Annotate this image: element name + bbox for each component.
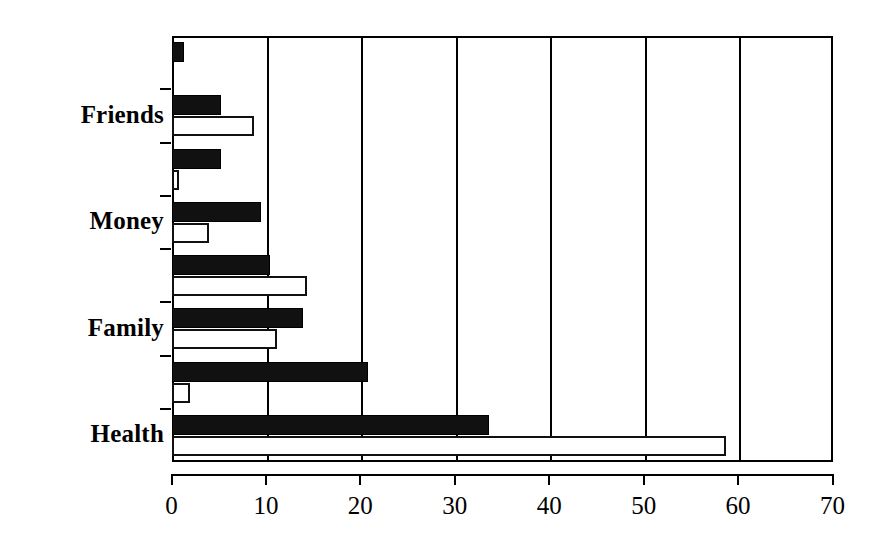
y-axis-tick-2: [160, 142, 171, 144]
y-axis-tick-6: [160, 355, 171, 357]
x-axis-tick-label-0: 0: [165, 492, 178, 520]
bar-series-dark-3: [172, 202, 262, 222]
bar-series-dark-6: [172, 362, 368, 382]
bar-series-light-2: [172, 170, 180, 190]
bar-series-light-5: [172, 329, 278, 349]
bar-series-light-7: [172, 436, 726, 456]
x-axis-line: [172, 474, 833, 476]
x-axis-tick-label-70: 70: [820, 492, 845, 520]
bar-series-dark-1: [172, 95, 221, 115]
bars-layer: [172, 36, 833, 462]
bar-series-light-4: [172, 276, 307, 296]
y-axis-tick-7: [160, 408, 171, 410]
category-label-friends: Friends: [81, 102, 164, 127]
x-axis-tick-label-20: 20: [348, 492, 373, 520]
x-axis-tick-10: [265, 474, 267, 485]
y-axis-tick-4: [160, 248, 171, 250]
x-axis-tick-label-30: 30: [442, 492, 467, 520]
x-axis-tick-60: [737, 474, 739, 485]
bar-series-dark-0: [172, 42, 184, 62]
bar-series-light-3: [172, 223, 210, 243]
bar-chart: FriendsMoneyFamilyHealth 010203040506070: [0, 0, 886, 544]
y-axis-tick-5: [160, 301, 171, 303]
bar-series-light-6: [172, 383, 191, 403]
x-axis-tick-50: [643, 474, 645, 485]
y-axis-tick-3: [160, 195, 171, 197]
x-axis-tick-label-10: 10: [253, 492, 278, 520]
x-axis-tick-label-40: 40: [537, 492, 562, 520]
bar-series-dark-4: [172, 255, 270, 275]
y-axis-tick-1: [160, 88, 171, 90]
x-axis-tick-40: [548, 474, 550, 485]
category-label-health: Health: [91, 421, 164, 446]
x-axis-tick-70: [832, 474, 834, 485]
bar-series-dark-7: [172, 415, 489, 435]
x-axis-tick-0: [171, 474, 173, 485]
category-label-family: Family: [88, 315, 164, 340]
bar-series-light-1: [172, 116, 254, 136]
bar-series-dark-5: [172, 308, 303, 328]
x-axis-tick-20: [359, 474, 361, 485]
x-axis-tick-label-50: 50: [631, 492, 656, 520]
bar-series-dark-2: [172, 149, 221, 169]
x-axis-tick-label-60: 60: [726, 492, 751, 520]
x-axis-tick-30: [454, 474, 456, 485]
category-label-money: Money: [89, 208, 164, 233]
